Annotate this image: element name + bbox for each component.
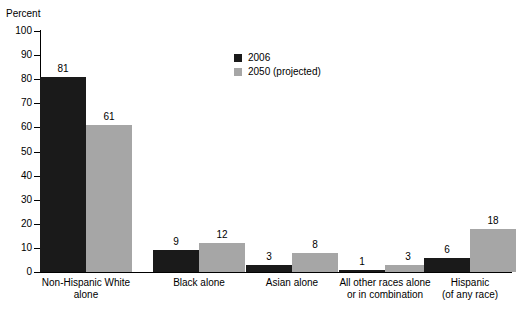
y-axis-tick-label: 0	[2, 267, 32, 277]
legend-item: 2006	[234, 51, 321, 65]
bar-value-label: 61	[86, 112, 132, 122]
bar	[246, 265, 292, 272]
bar-value-label: 12	[199, 230, 245, 240]
legend-item: 2050 (projected)	[234, 65, 321, 79]
bar	[339, 270, 385, 272]
bar-value-label: 9	[153, 237, 199, 247]
y-axis-tick-labels: 0102030405060708090100	[0, 0, 32, 315]
bar	[470, 229, 516, 272]
bar-value-label: 6	[424, 245, 470, 255]
legend-swatch-icon	[234, 68, 242, 76]
y-axis-tick-label: 80	[2, 74, 32, 84]
x-axis-line	[40, 272, 512, 273]
bar-value-label: 3	[246, 252, 292, 262]
bar-value-label: 1	[339, 257, 385, 267]
bar-value-label: 8	[292, 240, 338, 250]
bar	[292, 253, 338, 272]
y-axis-tick	[34, 272, 40, 273]
y-axis-tick-label: 40	[2, 171, 32, 181]
y-axis-tick-label: 30	[2, 195, 32, 205]
y-axis-tick-label: 10	[2, 243, 32, 253]
legend-label: 2050 (projected)	[248, 65, 321, 79]
x-axis-category-label: Hispanic (of any race)	[390, 277, 526, 301]
bar	[86, 125, 132, 272]
y-axis-tick-label: 50	[2, 147, 32, 157]
legend-swatch-icon	[234, 54, 242, 62]
bar-value-label: 18	[470, 216, 516, 226]
bar	[153, 250, 199, 272]
y-axis-tick-label: 100	[2, 26, 32, 36]
y-axis-tick-label: 20	[2, 219, 32, 229]
chart-legend: 20062050 (projected)	[234, 51, 321, 79]
legend-label: 2006	[248, 51, 270, 65]
bar-chart: Percent 0102030405060708090100 816191238…	[0, 0, 526, 315]
bar-value-label: 81	[40, 64, 86, 74]
y-axis-tick-label: 90	[2, 50, 32, 60]
y-axis-tick	[34, 31, 40, 32]
bar	[40, 77, 86, 272]
bar	[199, 243, 245, 272]
y-axis-tick-label: 70	[2, 98, 32, 108]
y-axis-tick	[34, 55, 40, 56]
y-axis-tick-label: 60	[2, 122, 32, 132]
bar	[424, 258, 470, 272]
